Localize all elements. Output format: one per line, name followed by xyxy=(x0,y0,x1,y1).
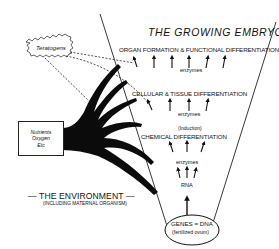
chemical-arrows xyxy=(170,142,204,152)
cellular-differentiation-label: CELLULAR & TISSUE DIFFERENTIATION xyxy=(132,91,247,97)
induction-label: (Induction) xyxy=(178,126,202,131)
cellular-arrows xyxy=(148,100,208,111)
organ-formation-label: ORGAN FORMATION & FUNCTIONAL DIFFERENTIA… xyxy=(119,47,279,53)
enzymes-mid-label: enzymes xyxy=(176,160,198,166)
cellular-enzymes-label: enzymes xyxy=(178,112,200,118)
environment-branches xyxy=(62,64,158,195)
fertilized-ovum-label: (fertilized ovum) xyxy=(172,230,209,235)
organ-enzymes-label: enzymes xyxy=(180,68,202,74)
diagram-title: THE GROWING EMBRYO xyxy=(148,27,279,38)
chemical-differentiation-label: CHEMICAL DIFFERENTIATION xyxy=(141,134,227,140)
etc-line: Etc xyxy=(19,142,63,149)
nutrients-box: Nutrients Oxygen Etc xyxy=(18,121,64,156)
rna-label: RNA xyxy=(181,183,193,189)
environment-sub-label: (INCLUDING MATERNAL ORGANISM) xyxy=(43,202,127,207)
genes-dna-label: GENES = DNA xyxy=(171,221,213,227)
teratogens-label: Teratogens xyxy=(36,45,66,51)
environment-label: — THE ENVIRONMENT — xyxy=(28,192,135,201)
rna-arrows xyxy=(178,168,196,178)
